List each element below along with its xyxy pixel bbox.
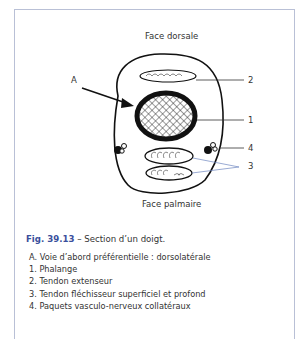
label-face-palmaire: Face palmaire <box>142 199 201 209</box>
figure-number: Fig. 39.13 <box>26 234 74 244</box>
legend-item-1: 1. Phalange <box>29 263 211 275</box>
legend-item-A: A. Voie d’abord préférentielle : dorsola… <box>29 251 211 263</box>
legend-item-2: 2. Tendon extenseur <box>29 275 211 287</box>
label-4: 4 <box>248 143 253 153</box>
neurovascular-bundle-left <box>114 144 127 155</box>
label-A: A <box>71 75 77 85</box>
label-2: 2 <box>248 75 253 85</box>
figure-title: – Section d’un doigt. <box>74 234 165 244</box>
extensor-tendon-2 <box>140 70 196 82</box>
figure-legend: A. Voie d’abord préférentielle : dorsola… <box>29 251 211 312</box>
label-1: 1 <box>248 115 253 125</box>
neurovascular-bundle-right <box>204 143 217 155</box>
legend-item-3: 3. Tendon fléchisseur superficiel et pro… <box>29 288 211 300</box>
flexor-tendon-deep <box>146 166 192 180</box>
legend-item-4: 4. Paquets vasculo-nerveux collatéraux <box>29 300 211 312</box>
label-3: 3 <box>248 161 253 171</box>
phalanx-1 <box>137 93 195 139</box>
figure-caption: Fig. 39.13 – Section d’un doigt. <box>26 234 165 244</box>
label-face-dorsale: Face dorsale <box>145 31 198 41</box>
approach-arrow-head <box>121 98 134 108</box>
flexor-tendon-superficial <box>145 148 193 164</box>
